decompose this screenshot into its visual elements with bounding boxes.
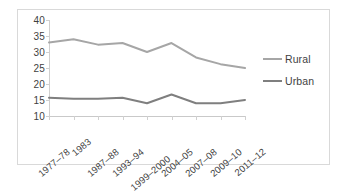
- y-axis-tick-label: 10: [33, 111, 45, 122]
- y-axis-tick-label: 30: [33, 47, 45, 58]
- legend-label-rural: Rural: [285, 53, 311, 65]
- series-line-rural: [49, 39, 245, 68]
- x-axis-tick: [196, 116, 197, 120]
- x-axis-tick: [147, 116, 148, 120]
- series-lines: [49, 20, 245, 116]
- y-axis-tick-label: 40: [33, 15, 45, 26]
- plot-area: 10152025303540 1977–7819831987–881993–94…: [49, 20, 245, 116]
- x-axis-tick: [49, 116, 50, 120]
- y-axis-tick-label: 25: [33, 63, 45, 74]
- x-axis-tick: [245, 116, 246, 120]
- y-axis-tick-label: 20: [33, 79, 45, 90]
- x-axis-tick: [98, 116, 99, 120]
- chart-container: 10152025303540 1977–7819831987–881993–94…: [17, 9, 330, 165]
- x-axis-tick: [172, 116, 173, 120]
- legend-label-urban: Urban: [285, 75, 314, 87]
- legend-swatch-rural: [263, 58, 282, 60]
- y-axis-tick-label: 15: [33, 95, 45, 106]
- x-axis-tick: [221, 116, 222, 120]
- x-axis-tick: [74, 116, 75, 120]
- legend-swatch-urban: [263, 80, 282, 82]
- series-line-urban: [49, 95, 245, 104]
- legend-item-rural: Rural: [263, 48, 329, 70]
- x-axis-tick: [123, 116, 124, 120]
- y-axis-tick-label: 35: [33, 31, 45, 42]
- legend-item-urban: Urban: [263, 70, 329, 92]
- chart-legend: Rural Urban: [263, 48, 329, 92]
